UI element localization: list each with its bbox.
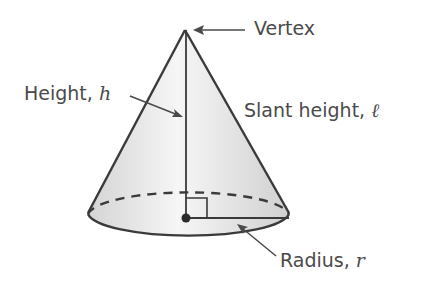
vertex-label-text: Vertex xyxy=(254,17,315,39)
height-variable: h xyxy=(99,82,111,104)
radius-label-text: Radius, xyxy=(280,249,356,271)
height-label-text: Height, xyxy=(24,82,99,104)
radius-label: Radius, r xyxy=(280,251,365,270)
vertex-label: Vertex xyxy=(254,19,315,38)
height-label: Height, h xyxy=(24,84,111,103)
cone-diagram xyxy=(0,0,428,287)
slant-height-variable: ℓ xyxy=(371,99,379,121)
radius-arrow-shaft xyxy=(242,228,276,256)
base-center-point xyxy=(182,214,191,223)
cone-surface xyxy=(88,30,289,236)
slant-height-label: Slant height, ℓ xyxy=(244,101,379,120)
slant-height-label-text: Slant height, xyxy=(244,99,371,121)
radius-variable: r xyxy=(356,249,365,271)
